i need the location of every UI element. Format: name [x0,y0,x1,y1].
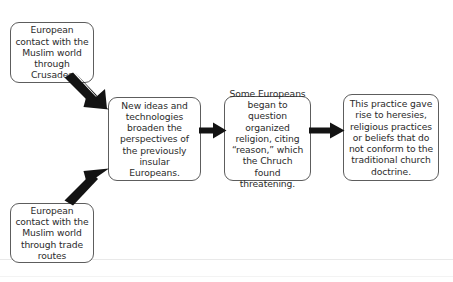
flowchart-node-new-ideas[interactable]: New ideas and technologies broaden the p… [108,97,201,181]
flowchart-node-crusades-label: European contact with the Muslim world t… [15,24,89,80]
flowchart-node-heresies-label: This practice gave rise to heresies, rel… [348,98,434,177]
arrow-right-icon [199,122,227,139]
arrow-right-icon [309,122,345,139]
flowchart-node-trade-routes-label: European contact with the Muslim world t… [15,205,89,261]
arrow-up-right-icon [62,168,110,206]
flowchart-node-crusades[interactable]: European contact with the Muslim world t… [10,22,94,83]
flowchart-canvas: European contact with the Muslim world t… [0,0,453,282]
flowchart-node-question-religion-label: Some Europeans began to question organiz… [229,88,306,189]
flowchart-node-question-religion[interactable]: Some Europeans began to question organiz… [224,96,311,181]
flowchart-node-new-ideas-label: New ideas and technologies broaden the p… [113,100,196,179]
flowchart-node-heresies[interactable]: This practice gave rise to heresies, rel… [343,94,439,181]
scan-artifact-line [0,276,453,277]
flowchart-node-trade-routes[interactable]: European contact with the Muslim world t… [10,203,94,263]
